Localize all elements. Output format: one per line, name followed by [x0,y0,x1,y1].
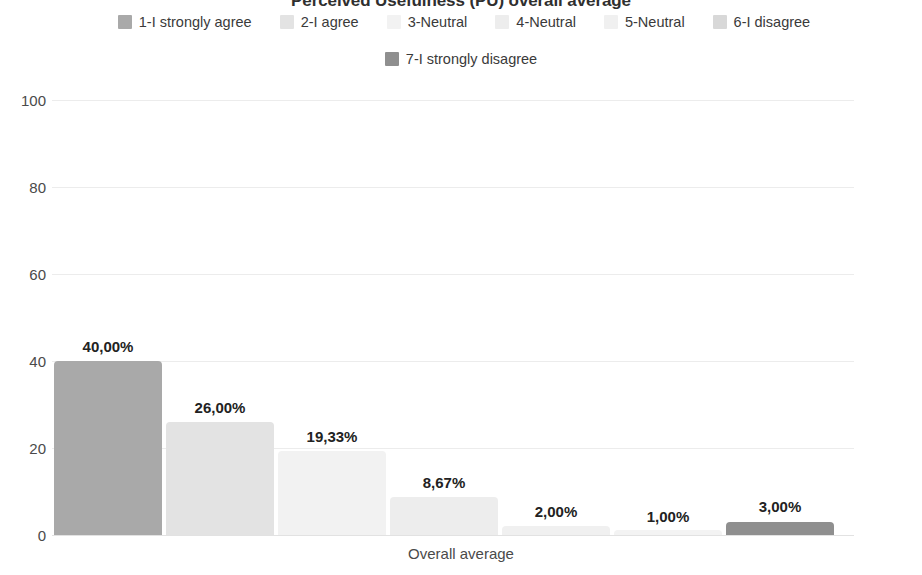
bar-slot: 1,00% [612,100,724,535]
legend-item-label: 4-Neutral [516,15,576,30]
y-axis-tick-label: 0 [0,528,46,543]
bar-slot: 3,00% [724,100,836,535]
table-row[interactable] [278,451,386,535]
legend-item-1-i-strongly-agree[interactable]: 1-I strongly agree [118,15,252,30]
bar-chart: Perceived Usefulness (PU) overall averag… [0,0,922,575]
table-row[interactable] [390,497,498,535]
table-row[interactable] [502,526,610,535]
y-axis-tick-label: 20 [0,441,46,456]
bar-slot: 19,33% [276,100,388,535]
bar-value-label: 2,00% [500,503,612,520]
chart-title: Perceived Usefulness (PU) overall averag… [0,0,922,11]
table-row[interactable] [726,522,834,535]
bar-value-label: 8,67% [388,474,500,491]
legend-item-5-neutral[interactable]: 5-Neutral [604,15,685,30]
table-row[interactable] [54,361,162,535]
bar-slot: 8,67% [388,100,500,535]
legend-swatch-icon [385,52,399,66]
legend-item-label: 1-I strongly agree [139,15,252,30]
table-row[interactable] [166,422,274,535]
legend-item-3-neutral[interactable]: 3-Neutral [387,15,468,30]
legend-item-7-i-strongly-disagree[interactable]: 7-I strongly disagree [385,52,537,67]
x-axis-label: Overall average [0,545,922,562]
legend-swatch-icon [604,15,618,29]
legend-item-2-i-agree[interactable]: 2-I agree [280,15,359,30]
bar-value-label: 1,00% [612,508,724,525]
legend-swatch-icon [118,15,132,29]
y-axis-tick-label: 100 [0,93,46,108]
axis-baseline [52,535,854,536]
bar-value-label: 40,00% [52,338,164,355]
legend-swatch-icon [713,15,727,29]
legend-swatch-icon [387,15,401,29]
y-axis-tick-label: 60 [0,267,46,282]
bar-slot: 26,00% [164,100,276,535]
bar-value-label: 19,33% [276,428,388,445]
plot-area: 40,00% 26,00% 19,33% 8,67% 2,00% 1,00% [52,100,854,536]
chart-legend-row-1: 1-I strongly agree 2-I agree 3-Neutral 4… [0,15,922,30]
legend-item-label: 6-I disagree [734,15,811,30]
table-row[interactable] [614,530,722,535]
y-axis-tick-label: 40 [0,354,46,369]
chart-legend-row-2: 7-I strongly disagree [0,52,922,67]
y-axis-tick-label: 80 [0,180,46,195]
legend-item-label: 2-I agree [301,15,359,30]
legend-swatch-icon [280,15,294,29]
legend-item-label: 5-Neutral [625,15,685,30]
bar-value-label: 3,00% [724,498,836,515]
legend-item-4-neutral[interactable]: 4-Neutral [495,15,576,30]
bar-series: 40,00% 26,00% 19,33% 8,67% 2,00% 1,00% [52,100,854,535]
bar-value-label: 26,00% [164,399,276,416]
legend-item-label: 3-Neutral [408,15,468,30]
y-axis: 100 80 60 40 20 0 [0,100,46,536]
bar-slot: 40,00% [52,100,164,535]
bar-slot: 2,00% [500,100,612,535]
legend-item-6-i-disagree[interactable]: 6-I disagree [713,15,811,30]
legend-item-label: 7-I strongly disagree [406,52,537,67]
legend-swatch-icon [495,15,509,29]
